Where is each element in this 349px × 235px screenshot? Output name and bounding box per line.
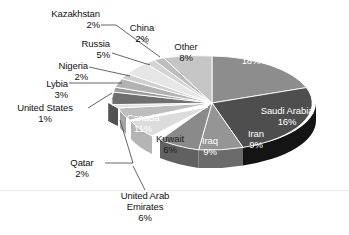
callout-china-value: 2% bbox=[119, 33, 165, 44]
slice-label-other-value: 8% bbox=[163, 52, 209, 63]
slice-label-canada-name: Canada bbox=[113, 112, 173, 123]
slice-label-other: Other 8% bbox=[163, 41, 209, 63]
slice-label-kuwait-value: 6% bbox=[147, 144, 193, 155]
callout-kazakhstan: Kazakhstan 2% bbox=[12, 8, 100, 30]
leader-russia bbox=[112, 53, 150, 65]
slice-label-venezuela: Venezuela 18% bbox=[215, 44, 287, 66]
callout-united-states: United States 1% bbox=[2, 102, 88, 124]
slice-label-iraq-name: Iraq bbox=[193, 135, 227, 146]
slice-label-iran-name: Iran bbox=[238, 128, 274, 139]
callout-kazakhstan-name: Kazakhstan bbox=[12, 8, 100, 19]
slice-label-iran-value: 9% bbox=[238, 139, 274, 150]
slice-label-venezuela-name: Venezuela bbox=[215, 44, 287, 55]
pie-chart: Kazakhstan 2% China 2% Russia 5% Nigeria… bbox=[0, 0, 349, 235]
slice-label-canada: Canada 11% bbox=[113, 112, 173, 134]
slice-label-canada-value: 11% bbox=[113, 123, 173, 134]
slice-label-kuwait-name: Kuwait bbox=[147, 133, 193, 144]
callout-russia: Russia 5% bbox=[40, 38, 110, 60]
slice-label-saudi-arabia-value: 16% bbox=[246, 116, 328, 127]
leader-uae bbox=[133, 166, 145, 190]
callout-qatar: Qatar 2% bbox=[60, 157, 104, 179]
callout-lybia: Lybia 3% bbox=[8, 78, 68, 100]
slice-label-other-name: Other bbox=[163, 41, 209, 52]
callout-united-states-name: United States bbox=[2, 102, 88, 113]
leader-nigeria bbox=[89, 67, 130, 76]
callout-uae-name-line2: Emirates bbox=[90, 201, 200, 212]
callout-russia-value: 5% bbox=[40, 49, 110, 60]
callout-qatar-name: Qatar bbox=[60, 157, 104, 168]
callout-united-arab-emirates: United Arab Emirates 6% bbox=[90, 190, 200, 223]
callout-kazakhstan-value: 2% bbox=[12, 19, 100, 30]
slice-label-iraq-value: 9% bbox=[193, 146, 227, 157]
slice-label-iran: Iran 9% bbox=[238, 128, 274, 150]
slice-label-saudi-arabia-name: Saudi Arabia bbox=[246, 105, 328, 116]
callout-china: China 2% bbox=[119, 22, 165, 44]
callout-uae-value: 6% bbox=[90, 212, 200, 223]
callout-lybia-name: Lybia bbox=[8, 78, 68, 89]
callout-qatar-value: 2% bbox=[60, 168, 104, 179]
callout-china-name: China bbox=[119, 22, 165, 33]
slice-label-kuwait: Kuwait 6% bbox=[147, 133, 193, 155]
slice-label-saudi-arabia: Saudi Arabia 16% bbox=[246, 105, 328, 127]
callout-united-states-value: 1% bbox=[2, 113, 88, 124]
slice-label-venezuela-value: 18% bbox=[215, 55, 287, 66]
callout-lybia-value: 3% bbox=[8, 89, 68, 100]
callout-russia-name: Russia bbox=[40, 38, 110, 49]
callout-nigeria-name: Nigeria bbox=[18, 60, 88, 71]
slice-label-iraq: Iraq 9% bbox=[193, 135, 227, 157]
callout-uae-name-line1: United Arab bbox=[90, 190, 200, 201]
